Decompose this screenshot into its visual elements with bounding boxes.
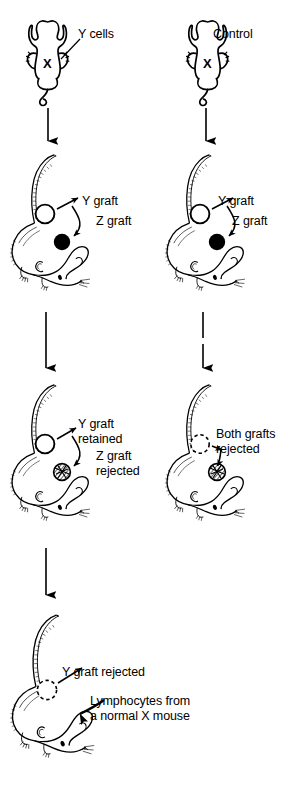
label-y-graft-right: Y graft [218, 194, 254, 208]
strain-mark-x-experimental: X [43, 56, 52, 71]
strain-mark-x-control: X [203, 56, 212, 71]
graft-rejection-diagram: Y cells Control Y graft Z graft Y graft … [0, 0, 296, 787]
label-z-graft-rejected: Z graft rejected [96, 449, 140, 478]
label-y-cells: Y cells [78, 27, 114, 41]
diagram-labels: Y cells Control Y graft Z graft Y graft … [0, 0, 296, 787]
label-both-grafts-rejected: Both grafts rejected [216, 427, 275, 456]
label-z-graft-left: Z graft [96, 214, 131, 228]
label-y-graft-retained: Y graft retained [78, 417, 122, 446]
label-control: Control [213, 27, 253, 41]
label-y-graft-left: Y graft [82, 194, 118, 208]
label-z-graft-right: Z graft [232, 214, 267, 228]
label-lymphocytes: Lymphocytes from a normal X mouse [90, 694, 190, 723]
label-y-graft-rejected-final: Y graft rejected [62, 665, 145, 679]
